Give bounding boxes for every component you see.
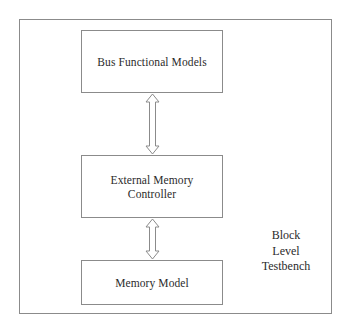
block-bus-functional-models[interactable]: Bus Functional Models — [81, 30, 223, 93]
block-label-memory-model: Memory Model — [115, 276, 189, 290]
block-external-memory-controller[interactable]: External Memory Controller — [81, 155, 223, 218]
block-memory-model[interactable]: Memory Model — [81, 260, 223, 305]
double-arrow-bfm-to-emc — [145, 93, 160, 155]
block-label-bus-functional-models: Bus Functional Models — [97, 55, 206, 69]
block-level-testbench-diagram: Bus Functional Models External Memory Co… — [0, 0, 346, 330]
testbench-caption: Block Level Testbench — [243, 228, 329, 275]
block-label-external-memory-controller: External Memory Controller — [111, 173, 194, 201]
double-arrow-emc-to-memory-model — [145, 218, 160, 260]
